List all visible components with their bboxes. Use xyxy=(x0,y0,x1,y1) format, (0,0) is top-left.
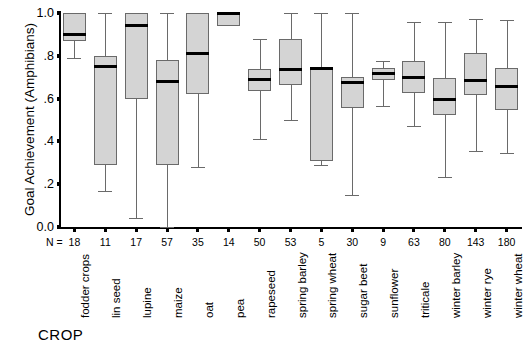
median-line xyxy=(464,79,487,82)
median-line xyxy=(248,78,271,81)
n-value: 30 xyxy=(337,236,367,248)
y-axis-line xyxy=(59,13,61,228)
median-line xyxy=(341,81,364,84)
x-tick-mark xyxy=(196,228,199,232)
whisker-upper xyxy=(105,13,106,56)
whisker-lower xyxy=(476,95,477,151)
whisker-lower xyxy=(414,93,415,126)
y-tick-label: .6 xyxy=(44,93,54,106)
whisker-upper xyxy=(507,20,508,67)
y-axis-title: Goal Achievement (Amphibians) xyxy=(22,0,37,245)
whisker-lower xyxy=(74,41,75,58)
whisker-cap-upper xyxy=(376,61,390,62)
y-tick-label: .8 xyxy=(44,50,54,63)
median-line xyxy=(94,65,117,68)
whisker-cap-lower xyxy=(67,58,81,59)
whisker-cap-lower xyxy=(345,195,359,196)
median-line xyxy=(402,76,425,79)
median-line xyxy=(125,24,148,27)
whisker-cap-upper xyxy=(284,13,298,14)
boxplot-figure: Goal Achievement (Amphibians) 0.0.2.4.6.… xyxy=(0,0,529,359)
median-line xyxy=(217,12,240,15)
category-label-fodder-crops: fodder crops xyxy=(79,254,91,318)
whisker-lower xyxy=(198,94,199,167)
median-line xyxy=(495,85,518,88)
n-value: 35 xyxy=(183,236,213,248)
category-label-triticale: triticale xyxy=(419,282,431,318)
whisker-cap-upper xyxy=(345,13,359,14)
category-label-pea: pea xyxy=(234,299,246,318)
whisker-lower xyxy=(352,108,353,195)
box-maize xyxy=(156,60,179,165)
y-tick-label: 0.0 xyxy=(37,221,54,234)
n-value: 180 xyxy=(492,236,522,248)
n-value: 50 xyxy=(245,236,275,248)
whisker-lower xyxy=(507,110,508,153)
whisker-upper xyxy=(321,13,322,69)
n-value: 63 xyxy=(399,236,429,248)
whisker-lower xyxy=(383,80,384,106)
category-label-winter-rye: winter rye xyxy=(481,268,493,318)
n-value: 9 xyxy=(368,236,398,248)
whisker-upper xyxy=(414,22,415,62)
x-tick-mark xyxy=(382,228,385,232)
category-label-sunflower: sunflower xyxy=(388,269,400,318)
whisker-lower xyxy=(167,165,168,227)
whisker-upper xyxy=(445,22,446,79)
category-label-oat: oat xyxy=(203,302,215,318)
whisker-cap-upper xyxy=(469,19,483,20)
whisker-cap-lower xyxy=(253,139,267,140)
x-tick-mark xyxy=(135,228,138,232)
x-tick-mark xyxy=(443,228,446,232)
whisker-cap-upper xyxy=(438,22,452,23)
box-winter-barley xyxy=(433,78,456,114)
box-spring-barley xyxy=(279,39,302,85)
whisker-lower xyxy=(445,115,446,177)
category-label-maize: maize xyxy=(172,287,184,318)
x-tick-mark xyxy=(166,228,169,232)
whisker-cap-lower xyxy=(407,126,421,127)
whisker-upper xyxy=(291,13,292,39)
whisker-cap-lower xyxy=(376,106,390,107)
whisker-cap-upper xyxy=(253,39,267,40)
x-tick-mark xyxy=(73,228,76,232)
whisker-upper xyxy=(167,13,168,60)
median-line xyxy=(63,33,86,36)
whisker-upper xyxy=(476,19,477,52)
median-line xyxy=(279,68,302,71)
category-label-sugar-beet: sugar beet xyxy=(357,264,369,318)
x-tick-mark xyxy=(474,228,477,232)
whisker-cap-lower xyxy=(191,167,205,168)
category-label-spring-barley: spring barley xyxy=(296,252,308,318)
category-label-rapeseed: rapeseed xyxy=(265,270,277,318)
x-tick-mark xyxy=(104,228,107,232)
n-value: 5 xyxy=(306,236,336,248)
category-label-winter-wheat: winter wheat xyxy=(512,253,524,318)
median-line xyxy=(372,72,395,75)
whisker-cap-upper xyxy=(314,13,328,14)
n-value: 143 xyxy=(461,236,491,248)
category-label-spring-wheat: spring wheat xyxy=(326,253,338,318)
y-tick-label: .2 xyxy=(44,178,54,191)
box-winter-wheat xyxy=(495,68,518,111)
n-value: 18 xyxy=(59,236,89,248)
x-tick-mark xyxy=(351,228,354,232)
whisker-cap-lower xyxy=(98,191,112,192)
whisker-lower xyxy=(260,91,261,139)
whisker-upper xyxy=(260,39,261,69)
y-tick-label: .4 xyxy=(44,135,54,148)
whisker-cap-lower xyxy=(438,177,452,178)
whisker-lower xyxy=(136,99,137,219)
whisker-cap-lower xyxy=(129,218,143,219)
x-tick-mark xyxy=(258,228,261,232)
category-label-winter-barley: winter barley xyxy=(450,253,462,318)
whisker-lower xyxy=(105,165,106,191)
category-label-lupine: lupine xyxy=(141,287,153,318)
whisker-cap-lower xyxy=(500,153,514,154)
whisker-upper xyxy=(352,13,353,77)
n-value: 14 xyxy=(214,236,244,248)
n-value: 53 xyxy=(276,236,306,248)
whisker-cap-lower xyxy=(284,120,298,121)
box-pea xyxy=(217,13,240,26)
n-value: 11 xyxy=(90,236,120,248)
